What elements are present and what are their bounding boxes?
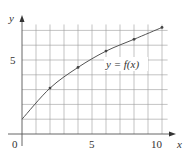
- y-tick-5: 5: [10, 54, 16, 66]
- origin-label: 0: [12, 138, 18, 150]
- data-point: [161, 26, 164, 29]
- grid: [22, 24, 168, 134]
- x-axis-arrow-icon: [169, 132, 176, 137]
- data-point: [105, 50, 108, 53]
- x-tick-10: 10: [151, 138, 163, 150]
- y-axis-arrow-icon: [20, 15, 25, 22]
- chart: y x 0 5 10 5 y = f(x): [0, 0, 188, 156]
- x-tick-5: 5: [89, 138, 95, 150]
- x-axis-label: x: [176, 138, 182, 150]
- data-point: [133, 38, 136, 41]
- data-point: [77, 66, 80, 69]
- data-point: [49, 87, 52, 90]
- y-axis-label: y: [8, 12, 14, 24]
- curve-label: y = f(x): [105, 58, 139, 71]
